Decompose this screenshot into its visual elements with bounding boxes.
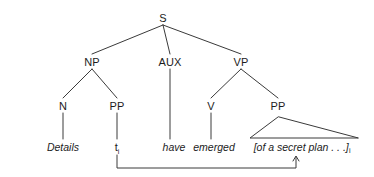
leaf-pp-phrase: [of a secret plan . . .]i — [254, 141, 351, 153]
pp-phrase-index: i — [349, 147, 351, 154]
branch-vp-v — [211, 69, 241, 98]
node-pp-in-vp: PP — [270, 100, 285, 112]
node-pp-in-np: PP — [109, 100, 124, 112]
branch-s-vp — [163, 25, 241, 54]
branch-s-aux — [163, 25, 170, 54]
branch-s-np — [92, 25, 163, 54]
pp-triangle — [250, 117, 358, 138]
node-vp: VP — [233, 56, 248, 68]
node-aux: AUX — [158, 56, 181, 68]
node-v: V — [207, 100, 215, 112]
leaf-emerged: emerged — [193, 141, 234, 153]
syntax-tree-figure: S NP AUX VP N PP V PP Details ti have em… — [0, 0, 374, 177]
movement-arrow-line — [117, 155, 296, 168]
node-n: N — [59, 100, 67, 112]
trace-index: i — [118, 148, 120, 155]
leaf-details: Details — [47, 141, 79, 153]
branch-np-n — [63, 69, 92, 98]
pp-phrase-text: [of a secret plan . . .] — [254, 141, 349, 153]
branch-np-pp — [92, 69, 117, 98]
node-s: S — [159, 12, 167, 24]
leaf-have: have — [163, 141, 186, 153]
branch-vp-pp — [241, 69, 278, 98]
node-np: NP — [84, 56, 100, 68]
leaf-trace: ti — [115, 141, 120, 153]
